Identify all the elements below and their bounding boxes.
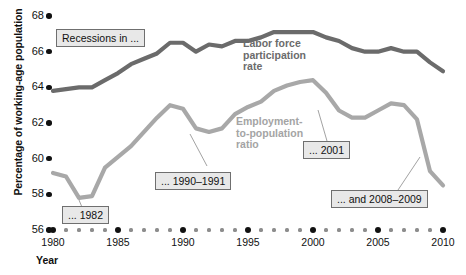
series-label-employment-line1: Employment-	[236, 116, 303, 128]
leader-line-1990-1991	[190, 134, 207, 166]
callout-1982: ... 1982	[62, 206, 109, 224]
series-label-labor-force: Labor force participation rate	[243, 38, 306, 73]
leader-line-2001	[318, 110, 327, 141]
callout-2001: ... 2001	[303, 141, 350, 159]
callout-2008-2009: ... and 2008–2009	[331, 190, 428, 208]
series-label-employment-ratio: Employment- to-population ratio	[236, 116, 303, 151]
chart-root: Percentage of working-age population 686…	[0, 0, 466, 275]
series-label-labor-force-line3: rate	[243, 61, 306, 73]
series-label-employment-line3: ratio	[236, 139, 303, 151]
x-axis-title: Year	[36, 254, 58, 266]
callout-1990-1991: ... 1990–1991	[155, 172, 231, 190]
series-label-labor-force-line1: Labor force	[243, 38, 306, 50]
leader-line-2008-2009	[398, 157, 420, 190]
callout-recessions-in: Recessions in ...	[56, 29, 145, 47]
